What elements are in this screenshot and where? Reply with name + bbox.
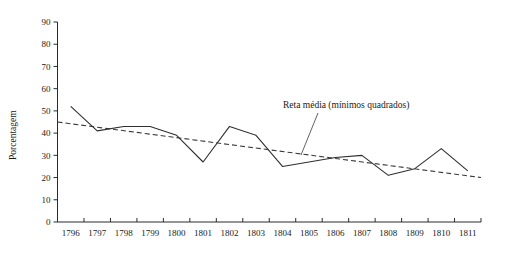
chart-background bbox=[0, 0, 512, 264]
x-tick-label: 1801 bbox=[194, 228, 212, 238]
y-tick-label: 30 bbox=[42, 151, 52, 161]
x-tick-label: 1809 bbox=[406, 228, 425, 238]
percentage-trend-chart: Porcentagem 0102030405060708090 17961797… bbox=[0, 0, 512, 264]
y-tick-label: 80 bbox=[42, 39, 52, 49]
x-tick-label: 1796 bbox=[62, 228, 81, 238]
x-tick-label: 1797 bbox=[88, 228, 107, 238]
y-tick-label: 60 bbox=[42, 84, 52, 94]
x-tick-label: 1806 bbox=[326, 228, 345, 238]
x-tick-label: 1803 bbox=[247, 228, 266, 238]
x-tick-label: 1800 bbox=[168, 228, 187, 238]
x-tick-label: 1811 bbox=[459, 228, 477, 238]
x-tick-label: 1802 bbox=[221, 228, 239, 238]
y-tick-label: 20 bbox=[42, 173, 52, 183]
y-axis-title: Porcentagem bbox=[8, 110, 18, 160]
x-tick-label: 1810 bbox=[432, 228, 451, 238]
x-tick-label: 1804 bbox=[273, 228, 292, 238]
y-tick-label: 40 bbox=[42, 128, 52, 138]
x-tick-label: 1799 bbox=[141, 228, 160, 238]
trend-line-annotation: Reta média (mínimos quadrados) bbox=[283, 100, 409, 111]
x-tick-label: 1798 bbox=[115, 228, 134, 238]
y-tick-label: 50 bbox=[42, 106, 52, 116]
y-tick-label: 0 bbox=[46, 217, 51, 227]
y-tick-label: 70 bbox=[42, 62, 52, 72]
x-tick-label: 1807 bbox=[353, 228, 372, 238]
y-tick-label: 90 bbox=[42, 17, 52, 27]
x-tick-label: 1805 bbox=[300, 228, 319, 238]
x-tick-label: 1808 bbox=[379, 228, 398, 238]
y-tick-label: 10 bbox=[42, 195, 52, 205]
